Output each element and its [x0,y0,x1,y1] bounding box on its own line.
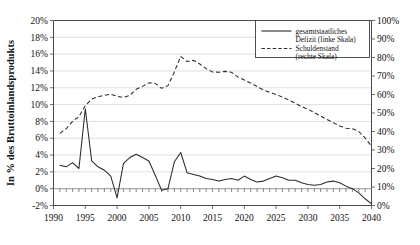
y-tick-label-right: 20% [377,164,395,174]
y-tick-label-left: 10% [31,100,49,110]
y-tick-label-right: 90% [377,34,395,44]
y-tick-label-left: 16% [31,49,49,59]
series-line-defizit [60,109,372,204]
y-tick-label-left: 2% [35,167,48,177]
legend: gesamtstaatlichesDefizit (linke Skala)Sc… [256,21,370,62]
x-tick-label: 2030 [298,213,317,223]
chart-svg: -2%0%2%4%6%8%10%12%14%16%18%20%0%10%20%3… [0,0,420,245]
y-tick-label-left: 8% [35,117,48,127]
y-tick-label-left: 20% [31,16,49,26]
y-axis-title: In % des Bruttoinlandsprodukts [5,40,16,186]
x-tick-label: 2040 [362,213,381,223]
y-tick-label-left: 14% [31,66,49,76]
y-tick-label-right: 70% [377,71,395,81]
y-tick-label-right: 30% [377,145,395,155]
x-tick-label: 1990 [44,213,63,223]
x-tick-label: 2020 [235,213,254,223]
x-tick-label: 2000 [108,213,127,223]
y-tick-label-left: 18% [31,33,49,43]
y-tick-label-right: 40% [377,127,395,137]
y-tick-label-right: 10% [377,182,395,192]
y-tick-label-right: 50% [377,108,395,118]
y-tick-label-right: 80% [377,53,395,63]
y-tick-label-right: 60% [377,90,395,100]
x-tick-label: 2015 [203,213,222,223]
y-tick-label-right: 100% [377,16,399,26]
y-axis-title-text: In % des Bruttoinlandsprodukts [5,40,16,186]
y-tick-label-left: 4% [35,150,48,160]
chart-container: -2%0%2%4%6%8%10%12%14%16%18%20%0%10%20%3… [0,0,420,245]
x-tick-label: 2035 [330,213,349,223]
y-tick-label-left: -2% [32,201,48,211]
y-tick-label-left: 6% [35,133,48,143]
y-tick-label-left: 12% [31,83,49,93]
x-tick-label: 2010 [171,213,190,223]
y-tick-label-left: 0% [35,184,48,194]
x-tick-label: 1995 [76,213,95,223]
legend-label: Defizit (linke Skala) [296,35,357,44]
y-tick-label-right: 0% [377,201,390,211]
legend-label: (rechte Skala) [296,52,338,61]
x-tick-label: 2025 [267,213,286,223]
series-line-schuldenstand [60,56,372,146]
series-layer [60,56,372,203]
x-tick-label: 2005 [139,213,158,223]
